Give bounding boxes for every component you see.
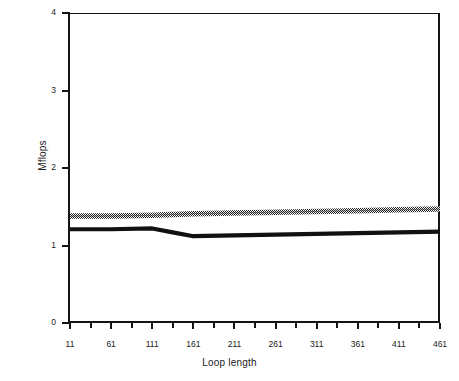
x-axis-minor-tick bbox=[377, 323, 379, 328]
x-axis-tick bbox=[151, 323, 153, 329]
x-axis-tick-label: 361 bbox=[338, 339, 378, 349]
x-axis-tick-label: 61 bbox=[91, 339, 131, 349]
x-axis-tick bbox=[69, 323, 71, 329]
x-axis-tick bbox=[398, 323, 400, 329]
x-axis-tick-label: 161 bbox=[173, 339, 213, 349]
y-axis-title: Mflops bbox=[37, 126, 48, 186]
x-axis-tick bbox=[233, 323, 235, 329]
x-axis-tick bbox=[439, 323, 441, 329]
x-axis-tick bbox=[357, 323, 359, 329]
x-axis-tick bbox=[110, 323, 112, 329]
plot-area bbox=[68, 13, 440, 323]
x-axis-minor-tick bbox=[254, 323, 256, 328]
x-axis-tick-label: 461 bbox=[420, 339, 459, 349]
chart-canvas: Mflops 01234 116111116121126131136141146… bbox=[0, 0, 459, 381]
x-axis-minor-tick bbox=[418, 323, 420, 328]
x-axis-tick-label: 11 bbox=[50, 339, 90, 349]
x-axis-tick-label: 111 bbox=[132, 339, 172, 349]
x-axis-title: Loop length bbox=[0, 357, 459, 368]
x-axis-tick bbox=[275, 323, 277, 329]
x-axis-minor-tick bbox=[90, 323, 92, 328]
x-axis-tick-label: 261 bbox=[256, 339, 296, 349]
y-axis-tick-label: 2 bbox=[34, 163, 56, 172]
x-axis-minor-tick bbox=[336, 323, 338, 328]
x-axis-tick bbox=[192, 323, 194, 329]
x-axis-tick-label: 411 bbox=[379, 339, 419, 349]
x-axis-minor-tick bbox=[172, 323, 174, 328]
x-axis-tick-label: 211 bbox=[214, 339, 254, 349]
x-axis-tick-label: 311 bbox=[297, 339, 337, 349]
x-axis-minor-tick bbox=[131, 323, 133, 328]
y-axis-tick-label: 1 bbox=[34, 241, 56, 250]
x-axis-minor-tick bbox=[213, 323, 215, 328]
x-axis-tick bbox=[316, 323, 318, 329]
y-axis-tick-label: 3 bbox=[34, 86, 56, 95]
y-axis-tick-label: 4 bbox=[34, 8, 56, 17]
y-axis-tick-label: 0 bbox=[34, 318, 56, 327]
x-axis-minor-tick bbox=[295, 323, 297, 328]
